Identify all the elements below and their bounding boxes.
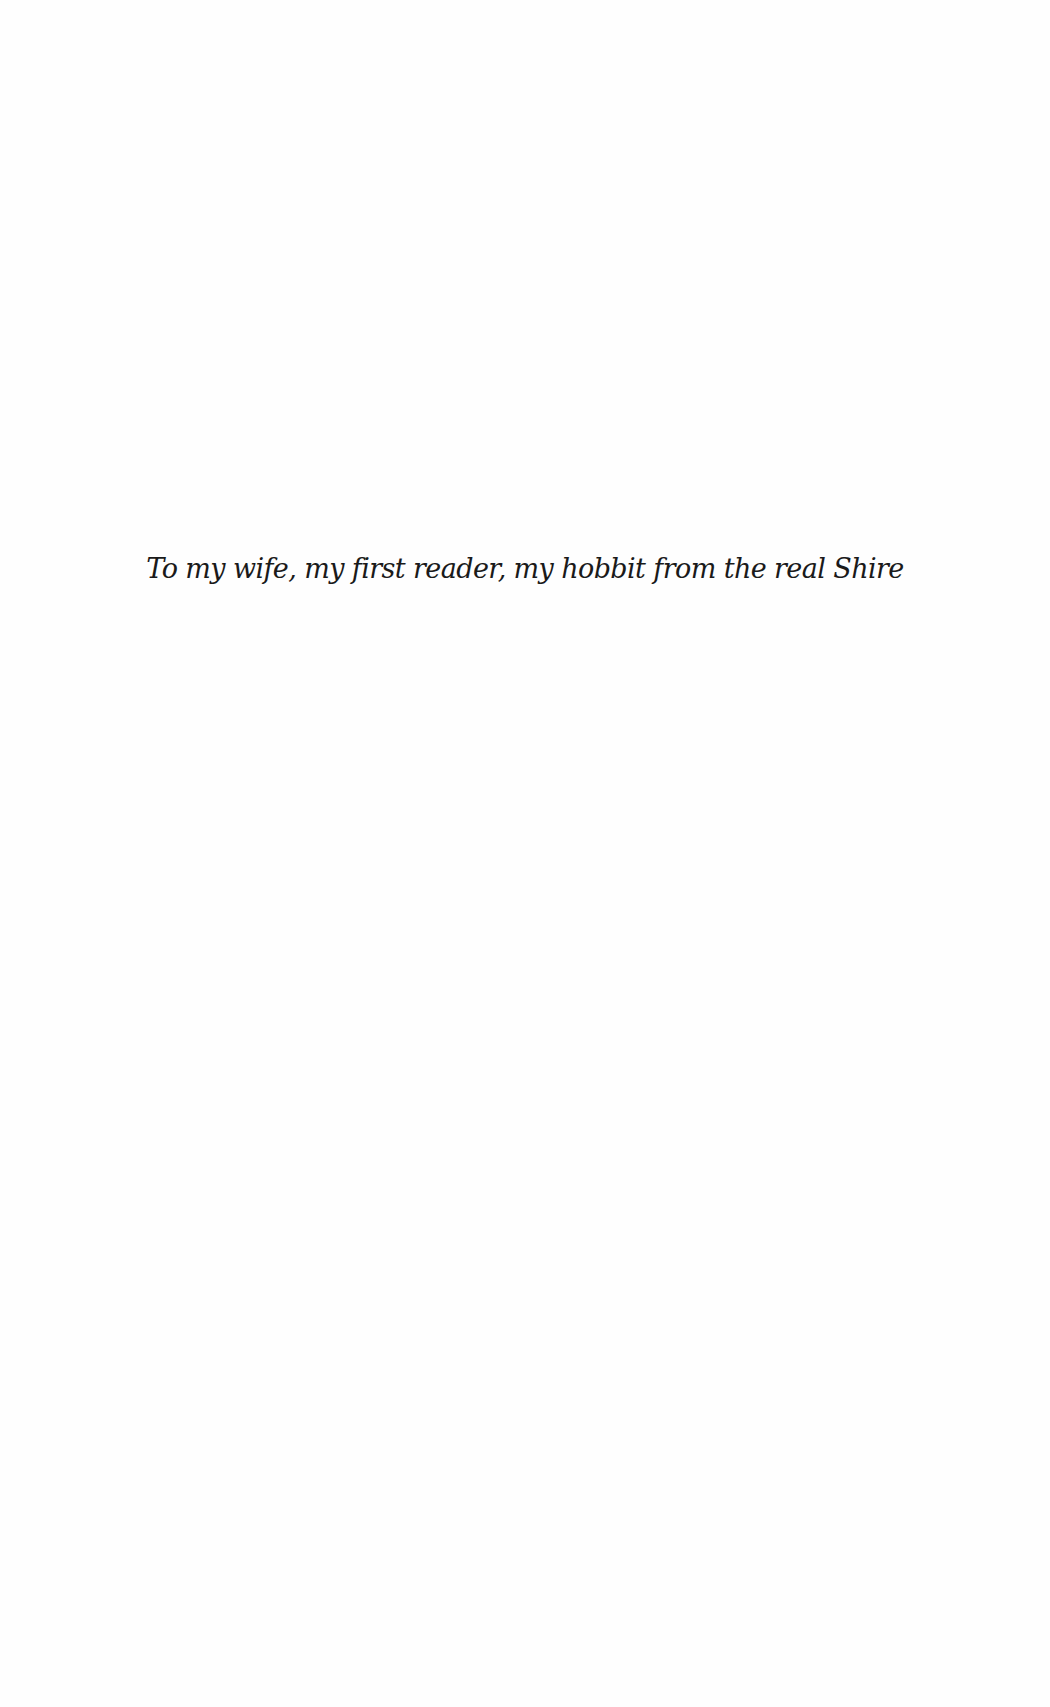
book-page: To my wife, my first reader, my hobbit f… (0, 0, 1050, 1707)
dedication-text: To my wife, my first reader, my hobbit f… (0, 551, 1050, 587)
